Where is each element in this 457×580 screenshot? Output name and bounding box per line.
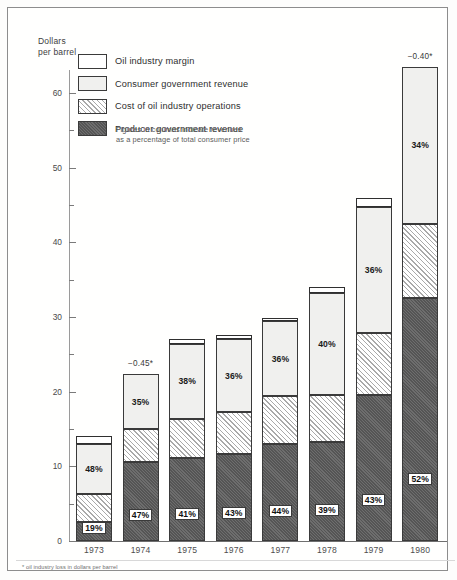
chart-frame: Dollars per barrel Oil industry marginCo… (7, 7, 448, 571)
bar-segment-1974-producer (123, 462, 159, 541)
footnote-separator (16, 560, 455, 561)
bar-segment-1977-margin (262, 318, 298, 321)
bar-label-producer-1978: 39% (309, 504, 345, 516)
y-tick-label-30: 30 (38, 312, 62, 322)
bar-segment-1980-cost (402, 224, 438, 299)
legend-swatch-margin (78, 54, 107, 69)
y-axis-title-line1: Dollars (38, 36, 76, 47)
bar-label-producer-1974: 47% (123, 509, 159, 521)
bar-label-producer-1979: 43% (356, 494, 392, 506)
bar-segment-1978-margin (309, 287, 345, 293)
y-tick-label-0: 0 (38, 536, 62, 546)
bar-segment-1977-cost (262, 396, 298, 444)
bar-segment-1976-cost (216, 412, 252, 455)
bar-segment-1979-producer (356, 395, 392, 541)
y-tick-label-20: 20 (38, 387, 62, 397)
x-axis-line (69, 541, 447, 542)
bar-label-consumer-1975: 38% (169, 376, 205, 386)
bar-1978[interactable]: 40%39% (309, 287, 345, 541)
bar-segment-1975-producer (169, 458, 205, 541)
bar-label-consumer-1978: 40% (309, 339, 345, 349)
bar-1974[interactable]: 35%47% (123, 374, 159, 541)
chart-page: Dollars per barrel Oil industry marginCo… (0, 0, 457, 580)
y-tick-0 (69, 541, 76, 542)
y-tick-label-60: 60 (38, 88, 62, 98)
x-axis-label-1980: 1980 (390, 545, 450, 555)
annotation-1974: −0.45* (111, 359, 171, 368)
bar-label-producer-1977: 44% (262, 505, 298, 517)
y-tick-label-40: 40 (38, 237, 62, 247)
bar-segment-1977-producer (262, 444, 298, 541)
bar-label-producer-text-1977: 44% (269, 505, 293, 517)
legend-label-margin: Oil industry margin (115, 56, 194, 66)
bar-label-consumer-1973: 48% (76, 464, 112, 474)
bar-label-producer-1973: 19% (76, 522, 112, 534)
bar-segment-1979-cost (356, 333, 392, 396)
y-axis-title: Dollars per barrel (38, 36, 76, 57)
bar-label-producer-text-1979: 43% (362, 494, 386, 506)
bar-label-producer-text-1978: 39% (315, 504, 339, 516)
bar-segment-1978-producer (309, 442, 345, 541)
bar-1979[interactable]: 36%43% (356, 198, 392, 541)
bar-segment-1978-cost (309, 395, 345, 443)
bar-label-producer-text-1980: 52% (408, 473, 432, 485)
footnote: * oil industry loss in dollars per barre… (22, 564, 118, 570)
bar-1976[interactable]: 36%43% (216, 335, 252, 541)
bar-segment-1973-cost (76, 494, 112, 522)
bar-1980[interactable]: 34%52% (402, 67, 438, 541)
bar-segment-1976-producer (216, 454, 252, 541)
y-tick-label-50: 50 (38, 163, 62, 173)
bar-label-producer-text-1975: 41% (175, 508, 199, 520)
bar-label-producer-1980: 52% (402, 473, 438, 485)
annotation-1980: −0.40* (390, 52, 450, 61)
y-axis-title-line2: per barrel (38, 47, 76, 58)
bar-label-consumer-1974: 35% (123, 397, 159, 407)
bar-1973[interactable]: 48%19% (76, 436, 112, 541)
y-tick-label-10: 10 (38, 461, 62, 471)
bar-segment-1980-producer (402, 298, 438, 541)
bar-label-producer-1976: 43% (216, 507, 252, 519)
bar-1975[interactable]: 38%41% (169, 339, 205, 541)
bar-label-consumer-1976: 36% (216, 371, 252, 381)
bar-label-consumer-1979: 36% (356, 265, 392, 275)
legend-item-margin: Oil industry margin (78, 52, 248, 70)
bar-segment-1979-margin (356, 198, 392, 208)
bar-1977[interactable]: 36%44% (262, 318, 298, 541)
bar-segment-1975-cost (169, 419, 205, 459)
bar-label-producer-1975: 41% (169, 508, 205, 520)
bar-segment-1975-margin (169, 339, 205, 344)
bar-label-producer-text-1974: 47% (129, 509, 153, 521)
bar-segment-1973-margin (76, 436, 112, 443)
bar-label-consumer-1977: 36% (262, 354, 298, 364)
bar-segment-1974-cost (123, 429, 159, 462)
bar-label-producer-text-1976: 43% (222, 507, 246, 519)
bar-segment-1976-margin (216, 335, 252, 339)
bar-label-producer-text-1973: 19% (82, 522, 106, 534)
bar-label-consumer-1980: 34% (402, 140, 438, 150)
